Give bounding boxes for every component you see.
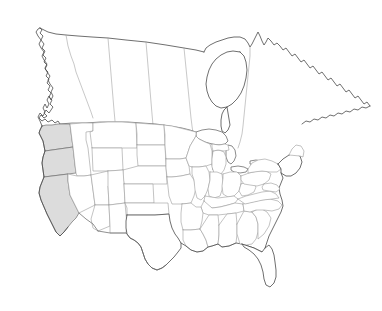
state-michigan-upper xyxy=(212,144,229,151)
state-iowa xyxy=(166,158,190,177)
state-oregon-highlight[interactable] xyxy=(42,147,76,177)
bc-alberta-border xyxy=(66,35,93,118)
alberta-saskatchewan-border xyxy=(108,38,115,121)
state-south-dakota xyxy=(137,145,166,166)
canada-coastline xyxy=(39,28,60,124)
state-ohio xyxy=(222,172,241,197)
state-wyoming xyxy=(92,148,123,171)
state-indiana xyxy=(208,172,223,198)
state-new-mexico xyxy=(109,203,127,233)
saskatchewan-manitoba-border xyxy=(146,42,153,125)
state-alabama xyxy=(218,213,237,247)
canada-northern-limit xyxy=(40,28,204,52)
midwest-states xyxy=(164,125,244,252)
state-kansas xyxy=(124,184,154,203)
hudson-bay-quebec-outline xyxy=(204,32,370,106)
james-bay-outline xyxy=(221,107,230,133)
north-america-map xyxy=(0,0,382,311)
state-oklahoma xyxy=(125,203,169,215)
ontario-quebec-border xyxy=(238,47,250,148)
state-georgia xyxy=(237,211,258,245)
state-nebraska xyxy=(123,166,167,184)
new-england-states xyxy=(278,153,302,176)
hudson-bay-outline xyxy=(206,51,247,108)
state-florida[interactable] xyxy=(242,244,276,287)
state-illinois xyxy=(192,166,210,200)
state-colorado xyxy=(108,170,125,205)
southeast-states xyxy=(237,145,304,287)
state-north-dakota xyxy=(136,123,165,145)
state-maryland-delaware xyxy=(262,183,280,192)
state-missouri xyxy=(167,174,196,204)
map-container xyxy=(0,0,382,311)
state-arizona xyxy=(91,205,110,231)
state-maine-border xyxy=(289,145,304,157)
state-arkansas xyxy=(181,203,203,230)
state-texas[interactable] xyxy=(126,214,181,270)
state-montana xyxy=(90,122,137,148)
labrador-coast xyxy=(302,106,370,124)
manitoba-ontario-border xyxy=(184,48,193,133)
